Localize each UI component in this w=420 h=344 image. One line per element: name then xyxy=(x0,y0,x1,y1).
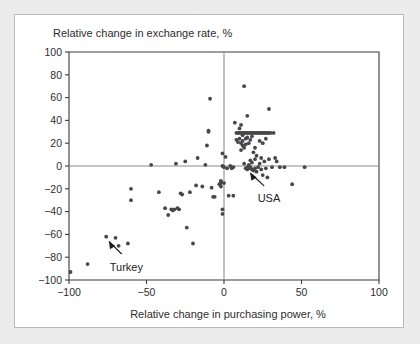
data-point xyxy=(210,186,214,190)
data-point xyxy=(191,242,195,246)
data-point xyxy=(245,114,249,118)
data-point xyxy=(259,168,263,172)
data-point xyxy=(278,165,282,169)
y-tick-label: −100 xyxy=(38,274,62,286)
data-point xyxy=(261,173,265,177)
data-point xyxy=(231,165,235,169)
data-point xyxy=(185,226,189,230)
y-tick-label: 80 xyxy=(50,69,62,81)
x-axis-title: Relative change in purchasing power, % xyxy=(130,308,326,320)
data-point xyxy=(180,193,184,197)
y-tick-label: 40 xyxy=(50,114,62,126)
data-point xyxy=(208,97,212,101)
data-point xyxy=(129,198,133,202)
data-point xyxy=(245,136,249,140)
data-point xyxy=(104,235,108,239)
annotation-arrowhead xyxy=(109,241,115,249)
data-point xyxy=(129,187,133,191)
y-tick-label: −20 xyxy=(44,183,62,195)
data-point xyxy=(258,139,262,143)
data-point xyxy=(188,190,192,194)
x-tick-label: 0 xyxy=(221,286,227,298)
data-point xyxy=(174,162,178,166)
data-point xyxy=(264,166,268,170)
data-point xyxy=(227,194,231,198)
data-point xyxy=(194,183,198,187)
data-point xyxy=(256,165,260,169)
data-point xyxy=(259,156,263,160)
y-axis-title: Relative change in exchange rate, % xyxy=(53,27,232,39)
data-point xyxy=(242,162,246,166)
data-points xyxy=(69,84,307,274)
data-point xyxy=(205,144,209,148)
data-point xyxy=(219,185,223,189)
data-point xyxy=(250,134,254,138)
data-point xyxy=(224,155,228,159)
x-tick-label: 50 xyxy=(296,286,308,298)
annotation-arrowhead xyxy=(250,173,256,181)
y-tick-label: 20 xyxy=(50,137,62,149)
data-point xyxy=(250,161,254,165)
data-point xyxy=(247,141,251,145)
data-point xyxy=(163,206,167,210)
data-point xyxy=(241,139,245,143)
chart-canvas: −100−80−60−40−20020406080100 −100−500501… xyxy=(15,15,405,329)
x-tick-label: −100 xyxy=(57,286,81,298)
data-point xyxy=(267,157,271,161)
data-point xyxy=(231,194,235,198)
data-point xyxy=(221,212,225,216)
y-axis-ticks: −100−80−60−40−20020406080100 xyxy=(38,46,69,286)
data-point xyxy=(149,163,153,167)
y-tick-label: 60 xyxy=(50,91,62,103)
data-point xyxy=(253,157,257,161)
data-point xyxy=(233,121,237,125)
annotation-label: Turkey xyxy=(110,261,144,273)
data-point xyxy=(239,123,243,127)
data-point xyxy=(262,160,266,164)
data-point xyxy=(303,165,307,169)
data-point xyxy=(266,176,270,180)
annotations: TurkeyUSA xyxy=(109,173,281,273)
data-point xyxy=(242,84,246,88)
data-point xyxy=(258,162,262,166)
data-point xyxy=(283,165,287,169)
data-point xyxy=(69,270,73,274)
data-point xyxy=(221,207,225,211)
x-tick-label: −50 xyxy=(138,286,156,298)
data-point xyxy=(221,152,225,156)
data-point xyxy=(157,190,161,194)
data-point xyxy=(204,163,208,167)
x-tick-label: 100 xyxy=(370,286,388,298)
data-point xyxy=(196,156,200,160)
x-axis-ticks: −100−50050100 xyxy=(57,280,388,298)
data-point xyxy=(207,129,211,133)
data-point xyxy=(183,160,187,164)
y-tick-label: 0 xyxy=(56,160,62,172)
data-point xyxy=(253,146,257,150)
data-point xyxy=(200,185,204,189)
data-point xyxy=(261,141,265,145)
y-tick-label: −80 xyxy=(44,251,62,263)
y-tick-label: 100 xyxy=(44,46,62,58)
data-point xyxy=(86,262,90,266)
annotation-label: USA xyxy=(258,192,281,204)
data-point xyxy=(242,146,246,150)
data-point xyxy=(267,107,271,111)
data-point xyxy=(248,138,252,142)
data-point xyxy=(213,195,217,199)
scatter-chart: −100−80−60−40−20020406080100 −100−500501… xyxy=(15,15,405,329)
data-point xyxy=(225,166,229,170)
data-point xyxy=(239,148,243,152)
data-point xyxy=(222,181,226,185)
data-point xyxy=(270,165,274,169)
data-point xyxy=(273,156,277,160)
data-point xyxy=(255,170,259,174)
data-point xyxy=(114,236,118,240)
data-point xyxy=(272,131,276,135)
data-point xyxy=(264,137,268,141)
data-point xyxy=(238,137,242,141)
data-point xyxy=(177,207,181,211)
data-point xyxy=(252,150,256,154)
y-tick-label: −40 xyxy=(44,205,62,217)
data-point xyxy=(275,160,279,164)
